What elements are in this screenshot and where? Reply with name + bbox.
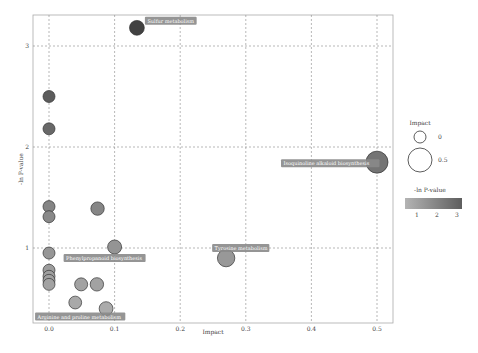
data-point (43, 123, 55, 135)
point-label: Tyrosine metabolism (215, 245, 268, 252)
plot-area (33, 15, 393, 323)
x-tick-label: 0.1 (110, 325, 120, 332)
legend-size-small-label: 0 (438, 133, 442, 140)
x-tick-label: 0.3 (241, 325, 251, 332)
y-tick-label: 3 (25, 42, 29, 49)
point-label: Phenylpropanoid biosynthesis (66, 255, 142, 262)
data-point (43, 211, 55, 223)
legend-size-large-label: 0.5 (438, 156, 448, 163)
legend-color-bar (405, 198, 462, 209)
point-label: Sulfur metabolism (147, 18, 194, 24)
legend-color-tick-2: 2 (435, 211, 439, 218)
pathway-impact-bubble-chart: 0.00.10.20.30.40.5 123 Impact -ln P-valu… (0, 0, 478, 353)
point-label: Isoquinoline alkaloid biosynthesis (284, 160, 370, 167)
legend-color-tick-3: 3 (455, 211, 459, 218)
point-label: Arginine and proline metabolism (37, 314, 122, 321)
legend: Impact 0 0.5 -ln P-value 1 2 3 (405, 119, 462, 218)
x-tick-label: 0.2 (175, 325, 185, 332)
data-point (91, 202, 104, 215)
x-tick-label: 0.4 (307, 325, 317, 332)
y-axis-ticks: 123 (25, 42, 29, 251)
y-tick-label: 2 (25, 143, 29, 150)
legend-size-large-icon (408, 148, 432, 172)
data-point (43, 247, 55, 259)
x-axis-label: Impact (202, 328, 224, 336)
legend-size-small-icon (414, 131, 426, 143)
data-point (43, 278, 55, 290)
data-point (90, 278, 103, 291)
data-point (130, 20, 145, 35)
y-axis-label: -ln P-value (17, 153, 24, 185)
legend-size-title: Impact (409, 119, 431, 127)
data-point (108, 240, 122, 254)
legend-color-tick-1: 1 (415, 211, 419, 218)
legend-color-title: -ln P-value (414, 186, 446, 193)
data-point (75, 278, 88, 291)
data-point (43, 91, 55, 103)
x-tick-label: 0.5 (372, 325, 382, 332)
x-tick-label: 0.0 (44, 325, 54, 332)
y-tick-label: 1 (25, 244, 29, 251)
data-point (69, 296, 82, 309)
